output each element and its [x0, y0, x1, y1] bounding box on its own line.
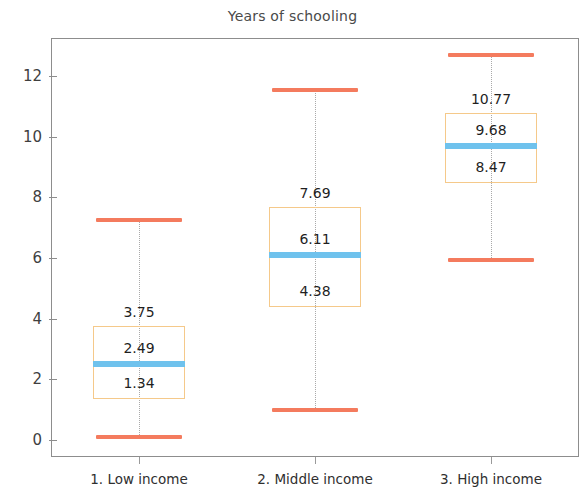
x-axis-category-label: 3. High income: [440, 471, 542, 487]
x-axis-category-label: 1. Low income: [90, 471, 188, 487]
x-axis: 1. Low income2. Middle income3. High inc…: [0, 0, 585, 498]
x-axis-category-label: 2. Middle income: [257, 471, 373, 487]
x-axis-tick-mark: [491, 457, 492, 464]
x-axis-tick-mark: [139, 457, 140, 464]
x-axis-tick-mark: [315, 457, 316, 464]
box-plot-chart: Years of schooling 024681012 3.752.491.3…: [0, 0, 585, 498]
